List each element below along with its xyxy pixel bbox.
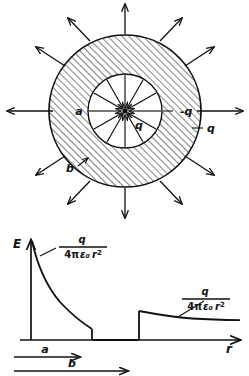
dimension-label-b: b <box>68 357 76 370</box>
formula-inside-denominator: 4πε₀r2 <box>64 249 102 260</box>
label-shell-charge-minus-q: -q <box>180 105 193 118</box>
label-outside-charge-q: q <box>207 122 215 135</box>
figure-root: a b q -q q E r q 4πε₀r2 <box>0 0 249 376</box>
dimension-label-a: a <box>41 343 48 356</box>
physics-figure: a b q -q q E r q 4πε₀r2 <box>0 0 249 376</box>
formula-outside-denom-exp: 2 <box>220 301 225 309</box>
label-center-charge-q: q <box>135 119 143 132</box>
formula-inside-denom-exp: 2 <box>97 249 102 257</box>
formula-outside-numerator: q <box>201 286 208 297</box>
label-inner-radius-a: a <box>75 105 82 118</box>
formula-inside-denom-prefix: 4π <box>64 249 79 260</box>
center-charge-dot <box>122 108 127 113</box>
formula-outside-denom-eps: ε₀ <box>203 301 214 312</box>
formula-inside-denom-eps: ε₀ <box>80 249 91 260</box>
plot-y-axis-label: E <box>13 237 22 251</box>
formula-outside-denom-prefix: 4π <box>187 301 202 312</box>
label-outer-radius-b: b <box>66 162 74 175</box>
formula-inside-numerator: q <box>78 234 85 245</box>
formula-outside-denominator: 4πε₀r2 <box>187 301 225 312</box>
